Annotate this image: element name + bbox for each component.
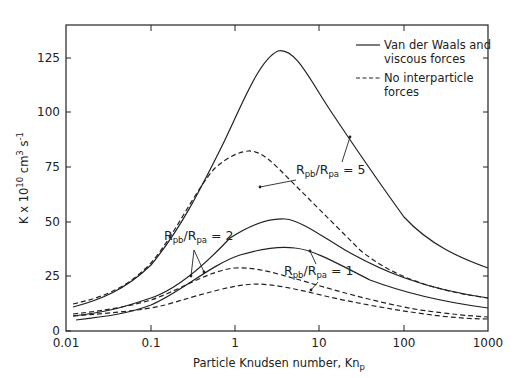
curve-r1-dashed xyxy=(73,284,488,319)
curve-r5-dashed xyxy=(73,151,488,304)
y-tick-label: 75 xyxy=(45,160,60,174)
annotation-r5: Rpb/Rpa = 5 xyxy=(259,136,366,189)
x-tick-label: 0.01 xyxy=(53,336,80,350)
curve-r1-solid xyxy=(76,247,488,320)
annotation-r2: Rpb/Rpa = 2 xyxy=(164,228,233,277)
y-tick-label: 50 xyxy=(45,215,60,229)
curves xyxy=(73,51,488,320)
y-tick-label: 125 xyxy=(37,51,60,65)
legend-solid-label-2: viscous forces xyxy=(384,52,465,66)
x-tick-label: 1 xyxy=(231,336,239,350)
x-tick-label: 100 xyxy=(393,336,416,350)
y-axis xyxy=(66,58,488,331)
curve-r2-solid xyxy=(73,219,488,316)
curve-r5-solid xyxy=(73,51,488,307)
annotation-label-r1: Rpb/Rpa = 1 xyxy=(284,263,353,280)
legend: Van der Waals and viscous forces No inte… xyxy=(356,38,491,99)
y-axis-label: K x 1010 cm3 s-1 xyxy=(15,132,31,224)
annotation-r1: Rpb/Rpa = 1 xyxy=(284,250,353,292)
y-tick-labels: 0 25 50 75 100 125 xyxy=(37,51,60,338)
x-tick-labels: 0.01 0.1 1 10 100 1000 xyxy=(53,336,504,350)
x-axis-label: Particle Knudsen number, Knp xyxy=(193,356,365,372)
legend-solid-label-1: Van der Waals and xyxy=(384,38,491,52)
y-tick-label: 25 xyxy=(45,269,60,283)
y-tick-label: 100 xyxy=(37,105,60,119)
x-tick-label: 0.1 xyxy=(141,336,160,350)
x-tick-label: 10 xyxy=(311,336,326,350)
annotation-label-r5: Rpb/Rpa = 5 xyxy=(296,162,365,179)
legend-dashed-label-2: forces xyxy=(384,85,419,99)
x-axis xyxy=(151,25,404,331)
chart: 0 25 50 75 100 125 0.01 0.1 1 10 100 100… xyxy=(0,0,516,378)
x-tick-label: 1000 xyxy=(473,336,504,350)
legend-dashed-label-1: No interparticle xyxy=(384,71,473,85)
